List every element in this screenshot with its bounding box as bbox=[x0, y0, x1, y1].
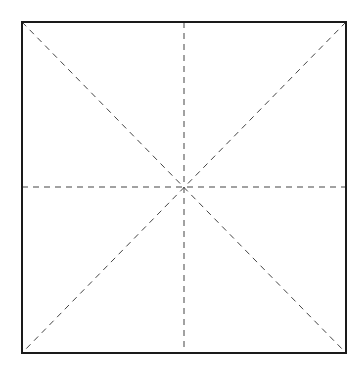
diagram-canvas bbox=[0, 0, 363, 374]
dashed-guide-lines bbox=[22, 22, 346, 353]
